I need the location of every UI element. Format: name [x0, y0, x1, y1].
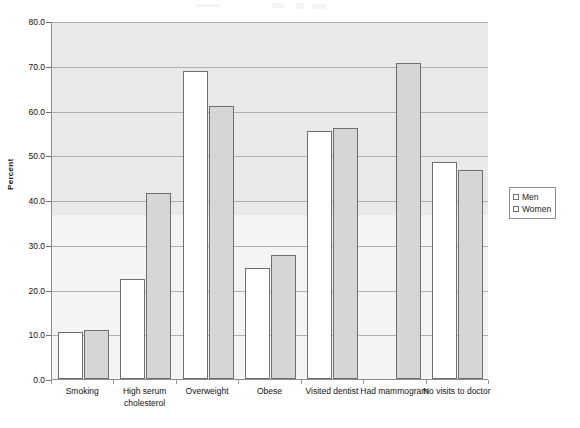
gridline [52, 156, 488, 157]
bar-men-1 [120, 279, 145, 379]
bar-men-4 [307, 131, 332, 379]
plot-background-wash [52, 215, 488, 379]
bar-men-0 [58, 332, 83, 379]
legend-swatch-men-icon [513, 194, 519, 200]
legend-label-men: Men [522, 191, 539, 203]
y-tick-label: 60.0 [0, 107, 51, 117]
scan-artifact [272, 3, 284, 8]
y-axis-title: Percent [6, 159, 15, 190]
y-tick-label: 30.0 [0, 241, 51, 251]
y-tick-label: 10.0 [0, 330, 51, 340]
x-tick-mark [113, 380, 114, 384]
x-tick-mark [301, 380, 302, 384]
x-tick-mark [51, 380, 52, 384]
x-tick-label: No visits to doctor [419, 386, 495, 398]
bar-men-3 [245, 268, 270, 379]
scan-artifact [296, 3, 304, 9]
legend-item-men[interactable]: Men [513, 191, 551, 203]
bar-chart: Percent 0.010.020.030.040.050.060.070.08… [0, 0, 580, 428]
bar-women-5 [396, 63, 421, 379]
x-tick-mark [238, 380, 239, 384]
x-tick-mark [176, 380, 177, 384]
y-tick-label: 0.0 [0, 375, 51, 385]
bar-men-6 [432, 162, 457, 379]
gridline [52, 67, 488, 68]
legend-label-women: Women [522, 203, 551, 215]
bar-women-2 [209, 106, 234, 379]
gridline [52, 335, 488, 336]
gridline [52, 112, 488, 113]
gridline [52, 291, 488, 292]
plot-area [51, 22, 488, 380]
bar-women-3 [271, 255, 296, 379]
bar-women-0 [84, 330, 109, 379]
x-tick-mark [363, 380, 364, 384]
scan-artifact [312, 4, 326, 9]
y-tick-label: 20.0 [0, 286, 51, 296]
bar-women-1 [146, 193, 171, 379]
gridline [52, 201, 488, 202]
gridline [52, 246, 488, 247]
legend-swatch-women-icon [513, 206, 519, 212]
legend: Men Women [509, 187, 556, 219]
y-tick-label: 80.0 [0, 17, 51, 27]
bar-women-4 [333, 128, 358, 379]
y-tick-label: 70.0 [0, 62, 51, 72]
bar-women-6 [458, 170, 483, 379]
gridline [52, 22, 488, 23]
x-tick-mark [488, 380, 489, 384]
legend-item-women[interactable]: Women [513, 203, 551, 215]
bar-men-2 [183, 71, 208, 379]
scan-artifact [196, 4, 220, 7]
x-tick-mark [426, 380, 427, 384]
y-tick-label: 50.0 [0, 151, 51, 161]
y-tick-label: 40.0 [0, 196, 51, 206]
